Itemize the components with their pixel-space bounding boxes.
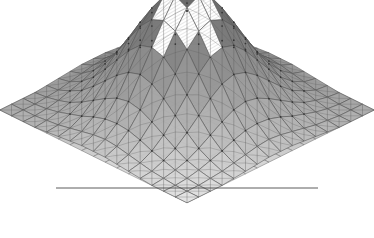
mesh-vertex	[139, 139, 141, 141]
mesh-vertex	[186, 160, 188, 162]
mesh-vertex	[151, 150, 153, 152]
mesh-vertex	[233, 25, 235, 27]
mesh-vertex	[245, 43, 247, 45]
mesh-vertex	[256, 123, 258, 125]
mesh-vertex	[210, 98, 212, 100]
mesh-vertex	[116, 53, 118, 55]
mesh-vertex	[268, 118, 270, 120]
mesh-vertex	[69, 102, 71, 104]
mesh-vertex	[186, 2, 188, 4]
mesh-vertex	[233, 27, 235, 29]
mesh-vertex	[291, 81, 293, 83]
mesh-vertex	[256, 53, 258, 55]
mesh-vertex	[163, 160, 165, 162]
mesh-vertex	[93, 70, 95, 72]
surface-plot-canvas	[0, 0, 374, 238]
mesh-vertex	[198, 34, 200, 36]
mesh-vertex	[221, 83, 223, 85]
apex-highlight-layer	[152, 0, 222, 57]
mesh-vertex	[221, 12, 223, 14]
mesh-vertex	[174, 43, 176, 45]
mesh-vertex	[81, 90, 83, 92]
mesh-vertex	[245, 50, 247, 52]
mesh-vertex	[256, 75, 258, 77]
mesh-vertex	[233, 109, 235, 111]
mesh-vertex	[139, 21, 141, 23]
mesh-vertex	[303, 90, 305, 92]
mesh-vertex	[198, 73, 200, 75]
mesh-vertex	[233, 74, 235, 76]
mesh-vertex	[139, 45, 141, 47]
mesh-vertex	[303, 113, 305, 115]
mesh-vertex	[256, 97, 258, 99]
mesh-vertex	[280, 70, 282, 72]
mesh-vertex	[104, 80, 106, 82]
mesh-vertex	[210, 134, 212, 136]
mesh-vertex	[128, 101, 130, 103]
mesh-vertex	[174, 34, 176, 36]
mesh-vertex	[151, 83, 153, 85]
mesh-vertex	[233, 45, 235, 47]
mesh-vertex	[198, 148, 200, 150]
mesh-vertex	[280, 100, 282, 102]
mesh-vertex	[69, 90, 71, 92]
mesh-vertex	[139, 109, 141, 111]
mesh-vertex	[245, 72, 247, 74]
mesh-vertex	[245, 130, 247, 132]
mesh-vertex	[151, 40, 153, 42]
mesh-vertex	[139, 47, 141, 49]
mesh-vertex	[104, 68, 106, 70]
mesh-vertex	[233, 39, 235, 41]
mesh-vertex	[151, 12, 153, 14]
mesh-vertex	[245, 37, 247, 39]
mesh-vertex	[104, 60, 106, 62]
mesh-vertex	[81, 101, 83, 103]
mesh-vertex	[163, 134, 165, 136]
mesh-vertex	[280, 116, 282, 118]
mesh-vertex	[69, 113, 71, 115]
mesh-vertex	[268, 60, 270, 62]
mesh-vertex	[93, 76, 95, 78]
mesh-vertex	[233, 139, 235, 141]
apex-peak-marker	[186, 10, 188, 12]
mesh-vertex	[268, 80, 270, 82]
mesh-vertex	[233, 21, 235, 23]
mesh-vertex	[186, 132, 188, 134]
mesh-vertex	[139, 74, 141, 76]
mesh-vertex	[221, 150, 223, 152]
mesh-vertex	[245, 38, 247, 40]
mesh-vertex	[139, 25, 141, 27]
mesh-vertex	[198, 43, 200, 45]
mesh-vertex	[256, 51, 258, 53]
mesh-vertex	[116, 123, 118, 125]
mesh-vertex	[116, 51, 118, 53]
mesh-vertex	[291, 115, 293, 117]
mesh-vertex	[186, 94, 188, 96]
mesh-vertex	[280, 76, 282, 78]
mesh-vertex	[221, 25, 223, 27]
mesh-vertex	[174, 148, 176, 150]
mesh-vertex	[268, 63, 270, 65]
mesh-vertex	[93, 85, 95, 87]
mesh-vertex	[139, 27, 141, 29]
mesh-vertex	[221, 121, 223, 123]
mesh-vertex	[128, 43, 130, 45]
mesh-vertex	[291, 90, 293, 92]
mesh-vertex	[128, 50, 130, 52]
mesh-vertex	[128, 130, 130, 132]
mesh-vertex	[163, 98, 165, 100]
mesh-vertex	[198, 115, 200, 117]
mesh-vertex	[303, 102, 305, 104]
mesh-vertex	[268, 98, 270, 100]
mesh-vertex	[93, 100, 95, 102]
mesh-vertex	[139, 39, 141, 41]
mesh-vertex	[151, 25, 153, 27]
mesh-vertex	[116, 97, 118, 99]
mesh-vertex	[128, 72, 130, 74]
mesh-vertex	[104, 63, 106, 65]
mesh-vertex	[174, 115, 176, 117]
mesh-vertex	[291, 101, 293, 103]
mesh-vertex	[116, 59, 118, 61]
surface-plot-figure	[0, 0, 374, 238]
mesh-vertex	[151, 121, 153, 123]
